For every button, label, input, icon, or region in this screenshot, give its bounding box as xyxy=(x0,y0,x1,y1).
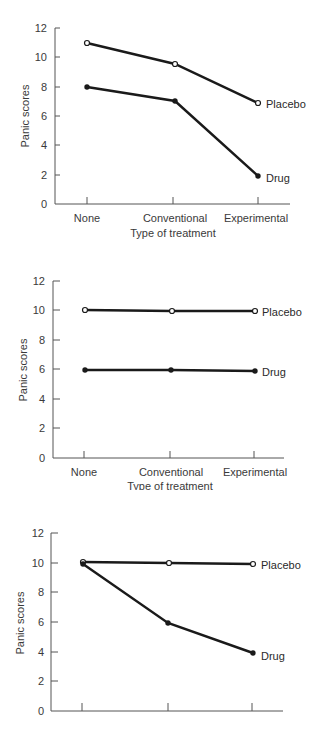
y-tick: 8 xyxy=(39,334,45,346)
chart-2: 0 2 4 6 8 10 12 Panic scores None Conven… xyxy=(0,240,321,490)
y-axis: 0 2 4 6 8 10 12 xyxy=(35,22,290,210)
y-axis: 0 2 4 6 8 10 12 xyxy=(32,527,283,717)
x-tick: None xyxy=(74,212,100,224)
y-tick: 12 xyxy=(33,275,45,287)
y-tick: 0 xyxy=(38,705,44,717)
x-tick: Experimental xyxy=(223,466,287,478)
x-tick: Conventional xyxy=(143,212,207,224)
chart-1: 0 2 4 6 8 10 12 Panic scores None Conven… xyxy=(0,0,321,240)
y-tick: 4 xyxy=(39,393,45,405)
y-tick: 8 xyxy=(41,81,47,93)
y-axis-title: Panic scores xyxy=(19,84,31,147)
y-axis-title: Panic scores xyxy=(14,591,26,654)
y-axis-title: Panic scores xyxy=(17,338,29,401)
y-tick: 0 xyxy=(39,452,45,464)
series-label-drug: Drug xyxy=(261,650,285,662)
y-tick: 4 xyxy=(41,139,47,151)
x-axis: None Conventional Experimental Type of t… xyxy=(71,451,287,490)
x-axis-title: Type of treatment xyxy=(130,227,216,239)
x-tick: None xyxy=(71,466,97,478)
series-drug: Drug xyxy=(80,561,285,662)
x-tick: Experimental xyxy=(224,212,288,224)
y-tick: 2 xyxy=(41,169,47,181)
x-tick: Conventional xyxy=(139,466,203,478)
y-tick: 6 xyxy=(41,110,47,122)
y-tick: 10 xyxy=(35,51,47,63)
x-axis-title: Type of treatment xyxy=(127,480,213,490)
series-drug: Drug xyxy=(82,366,286,378)
y-tick: 12 xyxy=(32,527,44,539)
series-label-placebo: Placebo xyxy=(261,559,301,571)
y-tick: 8 xyxy=(38,586,44,598)
y-tick: 10 xyxy=(32,557,44,569)
series-placebo: Placebo xyxy=(81,559,301,571)
y-tick: 4 xyxy=(38,646,44,658)
x-axis xyxy=(82,703,252,711)
y-tick: 6 xyxy=(38,616,44,628)
series-placebo: Placebo xyxy=(85,41,306,111)
series-label-placebo: Placebo xyxy=(266,98,306,110)
y-tick: 6 xyxy=(39,363,45,375)
y-tick: 0 xyxy=(41,198,47,210)
y-tick: 2 xyxy=(38,675,44,687)
y-tick: 10 xyxy=(33,304,45,316)
series-placebo: Placebo xyxy=(83,306,302,318)
series-drug: Drug xyxy=(84,84,290,184)
series-label-drug: Drug xyxy=(266,172,290,184)
y-tick: 2 xyxy=(39,422,45,434)
y-tick: 12 xyxy=(35,22,47,34)
chart-3: 0 2 4 6 8 10 12 Panic scores Placebo Dru… xyxy=(0,490,321,733)
series-label-drug: Drug xyxy=(262,366,286,378)
x-axis: None Conventional Experimental Type of t… xyxy=(74,197,288,239)
series-label-placebo: Placebo xyxy=(262,306,302,318)
